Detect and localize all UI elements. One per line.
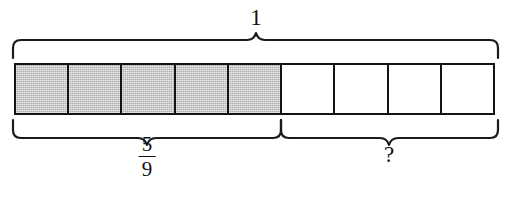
bar-cell-2: [69, 65, 122, 113]
bar-cell-1: [16, 65, 69, 113]
fraction-label: 5 9: [139, 134, 156, 180]
bar-cell-9: [442, 65, 493, 113]
bar-cell-8: [389, 65, 442, 113]
unknown-label: ?: [384, 143, 394, 166]
fraction: 5 9: [139, 134, 156, 180]
fraction-denominator: 9: [139, 157, 156, 180]
fraction-bar: [14, 63, 495, 115]
fraction-bar-figure: 1 5 9 ?: [0, 0, 509, 201]
bar-cell-4: [176, 65, 229, 113]
top-brace: [13, 33, 498, 58]
bar-cell-6: [282, 65, 335, 113]
bar-cell-7: [335, 65, 388, 113]
whole-label: 1: [250, 6, 262, 29]
fraction-numerator: 5: [139, 134, 156, 157]
bar-cell-3: [122, 65, 175, 113]
bar-cell-5: [229, 65, 282, 113]
